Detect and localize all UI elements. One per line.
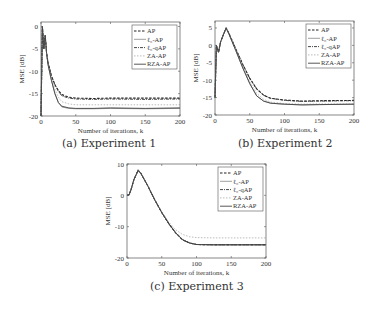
legend-entry: ZA-AP <box>147 52 167 59</box>
y-tick-label: -20 <box>115 255 125 263</box>
legend: APℓ₀-APℓ₀-qAPZA-APRZA-AP <box>218 167 263 211</box>
x-tick-label: 200 <box>349 117 360 125</box>
figure-canvas: 0501001502000-5-10-15-20Number of iterat… <box>0 0 377 309</box>
x-tick-label: 100 <box>105 118 116 126</box>
x-axis-label: Number of iterations, k <box>252 126 318 134</box>
legend-entry: ZA-AP <box>233 194 253 201</box>
legend-entry: AP <box>321 26 330 33</box>
x-tick-label: 0 <box>125 260 129 268</box>
x-tick-label: 50 <box>158 260 166 268</box>
y-axis-label: MSE [dB] <box>18 55 26 84</box>
x-tick-label: 50 <box>72 118 80 126</box>
legend-entry: AP <box>147 27 156 34</box>
y-axis-label: MSE [dB] <box>192 54 200 83</box>
x-tick-label: 100 <box>279 117 290 125</box>
y-tick-label: -5 <box>206 59 212 67</box>
x-tick-label: 0 <box>39 118 43 126</box>
x-tick-label: 200 <box>175 118 186 126</box>
y-tick-label: 0 <box>121 192 125 200</box>
y-tick-label: 0 <box>209 42 213 50</box>
x-tick-label: 0 <box>213 117 217 125</box>
legend-entry: RZA-AP <box>233 202 257 209</box>
legend-entry: ℓ₀-AP <box>321 35 337 42</box>
y-tick-label: 0 <box>35 23 39 31</box>
x-axis-label: Number of iterations, k <box>78 127 144 135</box>
y-tick-label: 5 <box>209 24 213 32</box>
y-tick-label: -10 <box>203 77 213 85</box>
legend-entry: ℓ₀-AP <box>233 178 249 185</box>
y-tick-label: 10 <box>117 161 125 169</box>
chart-experiment-2-plot: 05010015020050-5-10-15-20Number of itera… <box>192 21 360 134</box>
y-tick-label: -15 <box>203 94 213 102</box>
y-axis-label: MSE [dB] <box>104 197 112 226</box>
legend-entry: RZA-AP <box>321 59 345 66</box>
legend-entry: ZA-AP <box>321 51 341 58</box>
chart-experiment-3-plot: 050100150200100-10-20Number of iteration… <box>104 161 272 278</box>
x-tick-label: 200 <box>261 260 272 268</box>
y-tick-label: -10 <box>29 68 39 76</box>
x-tick-label: 150 <box>226 260 237 268</box>
chart-experiment-1-plot: 0501001502000-5-10-15-20Number of iterat… <box>18 22 186 135</box>
legend: APℓ₀-APℓ₀-qAPZA-APRZA-AP <box>132 25 177 69</box>
legend-entry: ℓ₀-AP <box>147 36 163 43</box>
legend-entry: RZA-AP <box>147 60 171 67</box>
legend-entry: ℓ₀-qAP <box>233 186 252 193</box>
y-tick-label: -15 <box>29 90 39 98</box>
x-tick-label: 150 <box>314 117 325 125</box>
legend-entry: AP <box>233 169 242 176</box>
legend-entry: ℓ₀-qAP <box>147 44 166 51</box>
y-tick-label: -20 <box>29 113 39 121</box>
y-tick-label: -5 <box>32 45 38 53</box>
legend: APℓ₀-APℓ₀-qAPZA-APRZA-AP <box>306 24 351 68</box>
y-tick-label: -20 <box>203 112 213 120</box>
y-tick-label: -10 <box>115 223 125 231</box>
x-tick-label: 100 <box>191 260 202 268</box>
x-tick-label: 50 <box>246 117 254 125</box>
legend-entry: ℓ₀-qAP <box>321 43 340 50</box>
x-axis-label: Number of iterations, k <box>164 269 230 277</box>
x-tick-label: 150 <box>140 118 151 126</box>
